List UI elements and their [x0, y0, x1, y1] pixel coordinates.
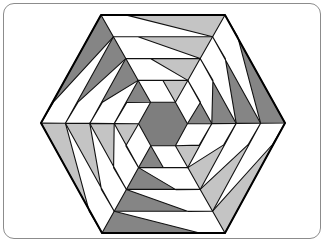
strip-ring1-side4 — [102, 211, 225, 233]
strip-ring2-side1 — [113, 37, 212, 59]
strip-ring4-side5 — [114, 124, 138, 168]
log-cabin-hexagon-diagram — [0, 0, 326, 243]
strip-ring4-side2 — [187, 80, 211, 123]
center-hexagon — [139, 102, 188, 146]
strip-ring1-side1 — [101, 15, 225, 37]
strip-ring2-side4 — [114, 189, 212, 211]
